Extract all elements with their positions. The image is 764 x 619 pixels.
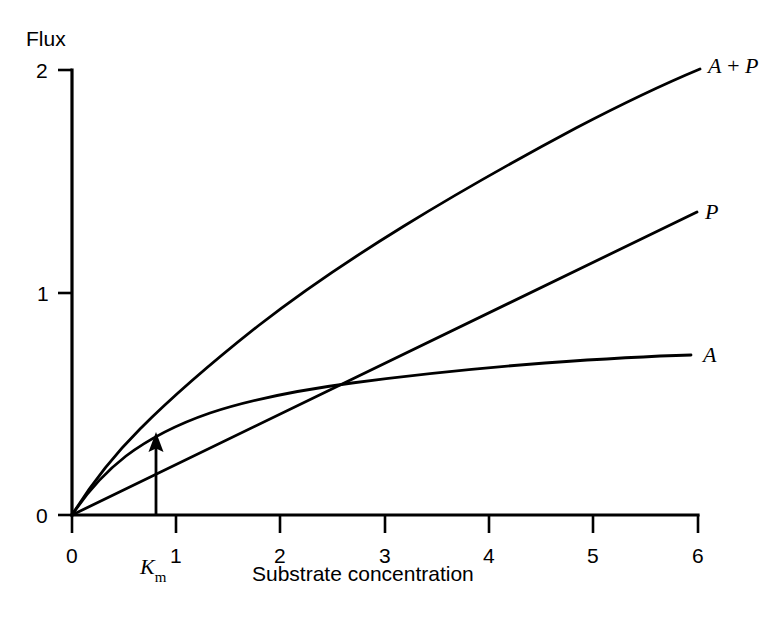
km-symbol: K <box>140 554 155 579</box>
figure-container: Flux 0 1 2 0 1 2 3 4 5 6 Km Substrate co… <box>0 0 764 619</box>
curve-p <box>72 212 697 515</box>
km-annotation-label: Km <box>140 556 166 582</box>
x-tick-label-5: 5 <box>587 545 599 566</box>
series-label-a: A <box>703 344 716 366</box>
x-axis-title: Substrate concentration <box>252 563 474 584</box>
series-label-p: P <box>705 201 718 223</box>
y-tick-label-2: 2 <box>36 60 48 81</box>
series-label-a-plus-p: A + P <box>708 55 759 77</box>
y-axis-title: Flux <box>26 28 66 49</box>
x-tick-label-6: 6 <box>692 545 704 566</box>
curve-a <box>72 355 691 515</box>
y-axis-ticks <box>58 70 72 515</box>
y-tick-label-0: 0 <box>36 505 48 526</box>
x-tick-label-0: 0 <box>66 545 78 566</box>
y-tick-label-1: 1 <box>37 283 49 304</box>
x-tick-label-1: 1 <box>170 545 182 566</box>
x-tick-label-4: 4 <box>483 545 495 566</box>
km-arrow <box>149 432 164 515</box>
x-axis-ticks <box>72 515 698 533</box>
curve-a-plus-p <box>72 69 700 515</box>
chart-plot-area <box>0 0 764 619</box>
km-subscript: m <box>155 569 167 585</box>
